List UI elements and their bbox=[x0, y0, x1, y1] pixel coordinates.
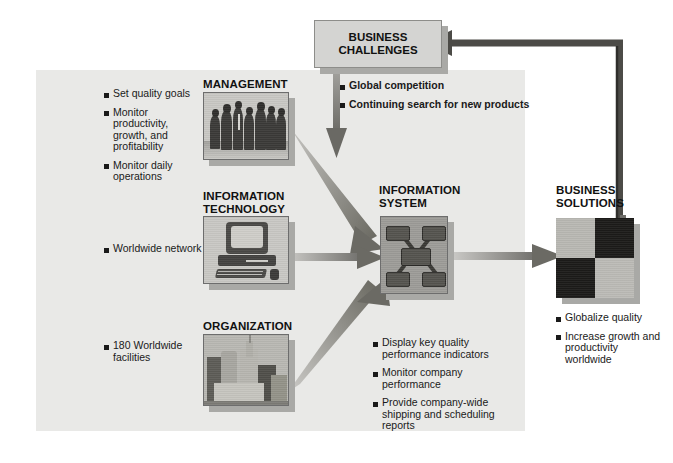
business-challenges-title-line1: BUSINESS bbox=[349, 31, 408, 43]
organization-heading: ORGANIZATION bbox=[203, 320, 292, 333]
information-system-photo bbox=[380, 216, 448, 294]
list-item-label: Monitor productivity, growth, and profit… bbox=[113, 107, 202, 153]
list-item: Globalize quality bbox=[556, 312, 666, 324]
information-technology-bullets: Worldwide network bbox=[104, 243, 204, 255]
list-item-label: Global competition bbox=[349, 80, 444, 92]
list-item-label: Globalize quality bbox=[565, 312, 642, 324]
checker-quadrant-top-right bbox=[595, 218, 634, 258]
bullet-square-icon bbox=[373, 372, 378, 377]
business-challenges-bullets: Global competition Continuing search for… bbox=[340, 80, 570, 110]
information-technology-heading-line1: INFORMATION bbox=[203, 190, 284, 202]
bullet-square-icon bbox=[104, 164, 109, 169]
bullet-square-icon bbox=[104, 248, 109, 253]
bullet-square-icon bbox=[104, 93, 109, 98]
business-solutions-heading: BUSINESS SOLUTIONS bbox=[556, 184, 624, 209]
bullet-square-icon bbox=[556, 335, 561, 340]
checker-quadrant-top-left bbox=[556, 218, 595, 258]
business-solutions-bullets: Globalize quality Increase growth and pr… bbox=[556, 312, 666, 365]
information-technology-photo bbox=[203, 216, 289, 284]
business-solutions-heading-line2: SOLUTIONS bbox=[556, 197, 624, 209]
list-item-label: 180 Worldwide facilities bbox=[113, 340, 196, 363]
list-item-label: Continuing search for new products bbox=[349, 99, 529, 111]
list-item: Increase growth and productivity worldwi… bbox=[556, 331, 666, 366]
list-item-label: Increase growth and productivity worldwi… bbox=[565, 331, 666, 366]
information-system-bullets: Display key quality performance indicato… bbox=[373, 337, 518, 432]
management-photo bbox=[203, 92, 289, 160]
business-solutions-heading-line1: BUSINESS bbox=[556, 184, 616, 196]
information-technology-heading: INFORMATION TECHNOLOGY bbox=[203, 190, 285, 215]
list-item: Continuing search for new products bbox=[340, 99, 570, 111]
management-bullets: Set quality goals Monitor productivity, … bbox=[104, 88, 202, 183]
bullet-square-icon bbox=[556, 317, 561, 322]
list-item-label: Provide company-wide shipping and schedu… bbox=[382, 397, 518, 432]
information-technology-heading-line2: TECHNOLOGY bbox=[203, 203, 285, 215]
list-item-label: Worldwide network bbox=[113, 243, 202, 255]
business-challenges-box: BUSINESS CHALLENGES bbox=[314, 20, 442, 68]
information-system-heading-line2: SYSTEM bbox=[379, 197, 427, 209]
list-item: Provide company-wide shipping and schedu… bbox=[373, 397, 518, 432]
list-item-label: Set quality goals bbox=[113, 88, 190, 100]
bullet-square-icon bbox=[373, 402, 378, 407]
information-system-heading: INFORMATION SYSTEM bbox=[379, 184, 460, 209]
management-heading: MANAGEMENT bbox=[203, 78, 288, 91]
business-solutions-photo bbox=[556, 218, 634, 298]
bullet-square-icon bbox=[104, 345, 109, 350]
bullet-square-icon bbox=[340, 103, 345, 108]
bullet-square-icon bbox=[104, 111, 109, 116]
diagram-canvas: BUSINESS CHALLENGES Global competition C… bbox=[0, 0, 673, 463]
organization-photo bbox=[203, 334, 289, 406]
list-item-label: Display key quality performance indicato… bbox=[382, 337, 518, 360]
list-item: Monitor daily operations bbox=[104, 160, 202, 183]
list-item: 180 Worldwide facilities bbox=[104, 340, 196, 363]
business-challenges-title-line2: CHALLENGES bbox=[338, 44, 417, 56]
list-item: Set quality goals bbox=[104, 88, 202, 100]
list-item-label: Monitor company performance bbox=[382, 367, 518, 390]
list-item: Display key quality performance indicato… bbox=[373, 337, 518, 360]
information-system-heading-line1: INFORMATION bbox=[379, 184, 460, 196]
list-item: Monitor productivity, growth, and profit… bbox=[104, 107, 202, 153]
list-item: Worldwide network bbox=[104, 243, 204, 255]
bullet-square-icon bbox=[340, 85, 345, 90]
bullet-square-icon bbox=[373, 342, 378, 347]
list-item: Global competition bbox=[340, 80, 570, 92]
list-item-label: Monitor daily operations bbox=[113, 160, 202, 183]
checker-quadrant-bottom-left bbox=[556, 258, 595, 298]
system-to-solutions-arrow bbox=[453, 244, 563, 268]
organization-bullets: 180 Worldwide facilities bbox=[104, 340, 196, 363]
checker-quadrant-bottom-right bbox=[595, 258, 634, 298]
list-item: Monitor company performance bbox=[373, 367, 518, 390]
